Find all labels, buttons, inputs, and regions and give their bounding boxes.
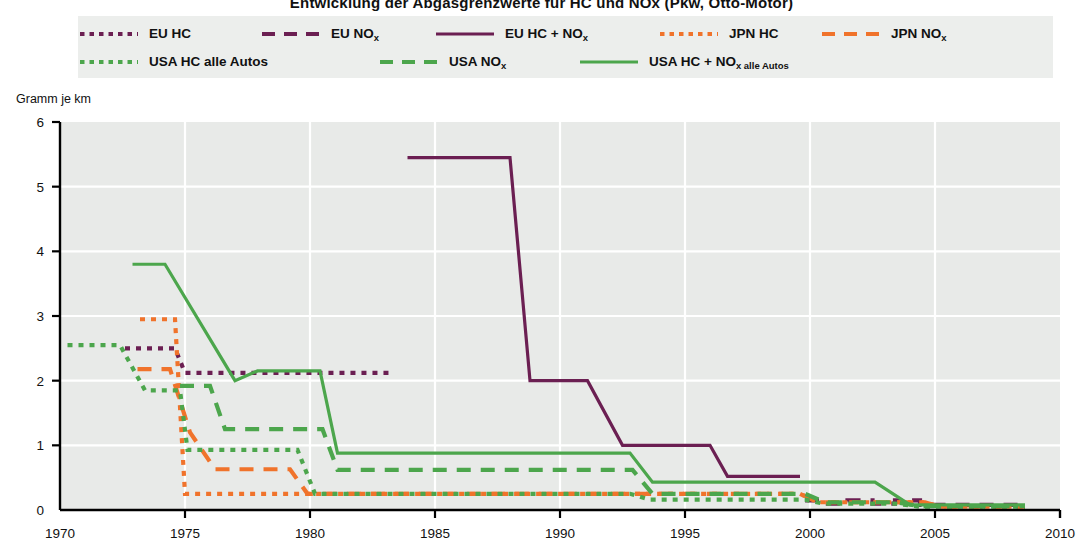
legend-swatch-usa-nox: [378, 49, 440, 75]
x-tick-label: 1985: [420, 526, 450, 541]
legend-item-eu-hc[interactable]: EU HC: [78, 21, 191, 47]
chart-title: Entwicklung der Abgasgrenzwerte fur HC u…: [0, 0, 1083, 12]
legend-label-usa-hc: USA HC alle Autos: [149, 55, 268, 69]
y-tick-label: 4: [36, 244, 44, 259]
legend-label-usa-nox: USA NOx: [449, 55, 506, 69]
legend-swatch-jpn-hc: [658, 21, 720, 47]
legend-swatch-eu-hc-nox: [434, 21, 496, 47]
legend-item-eu-hc-nox[interactable]: EU HC + NOx: [434, 21, 588, 47]
y-tick-label: 0: [36, 503, 44, 518]
legend-swatch-usa-hc-nox: [578, 49, 640, 75]
y-tick-label: 1: [36, 438, 44, 453]
legend-label-eu-hc-nox: EU HC + NOx: [505, 27, 588, 41]
x-tick-label: 2000: [795, 526, 825, 541]
legend-row-1: EU HCEU NOxEU HC + NOxJPN HCJPN NOx: [78, 21, 1053, 47]
y-tick-label: 2: [36, 374, 44, 389]
legend-item-eu-nox[interactable]: EU NOx: [260, 21, 379, 47]
x-tick-label: 1990: [545, 526, 575, 541]
y-tick-label: 6: [36, 115, 44, 130]
legend-swatch-jpn-nox: [820, 21, 882, 47]
legend-item-jpn-hc[interactable]: JPN HC: [658, 21, 779, 47]
legend-label-jpn-hc: JPN HC: [729, 27, 779, 41]
legend-item-usa-nox[interactable]: USA NOx: [378, 49, 506, 75]
chart-plot-area: 0123456197019751980198519901995200020052…: [0, 100, 1083, 547]
legend-swatch-usa-hc: [78, 49, 140, 75]
legend-label-eu-hc: EU HC: [149, 27, 191, 41]
chart-legend: EU HCEU NOxEU HC + NOxJPN HCJPN NOx USA …: [78, 16, 1053, 78]
legend-label-eu-nox: EU NOx: [331, 27, 379, 41]
legend-label-usa-hc-nox: USA HC + NOx alle Autos: [649, 55, 789, 69]
x-tick-label: 2010: [1045, 526, 1075, 541]
x-tick-label: 1995: [670, 526, 700, 541]
legend-swatch-eu-hc: [78, 21, 140, 47]
legend-label-jpn-nox: JPN NOx: [891, 27, 947, 41]
legend-item-usa-hc[interactable]: USA HC alle Autos: [78, 49, 268, 75]
legend-swatch-eu-nox: [260, 21, 322, 47]
x-tick-label: 1975: [170, 526, 200, 541]
legend-row-2: USA HC alle AutosUSA NOxUSA HC + NOx all…: [78, 49, 1053, 75]
y-tick-label: 3: [36, 309, 44, 324]
legend-item-usa-hc-nox[interactable]: USA HC + NOx alle Autos: [578, 49, 789, 75]
x-tick-label: 2005: [920, 526, 950, 541]
x-tick-label: 1980: [295, 526, 325, 541]
x-tick-label: 1970: [45, 526, 75, 541]
y-tick-label: 5: [36, 180, 44, 195]
legend-item-jpn-nox[interactable]: JPN NOx: [820, 21, 947, 47]
